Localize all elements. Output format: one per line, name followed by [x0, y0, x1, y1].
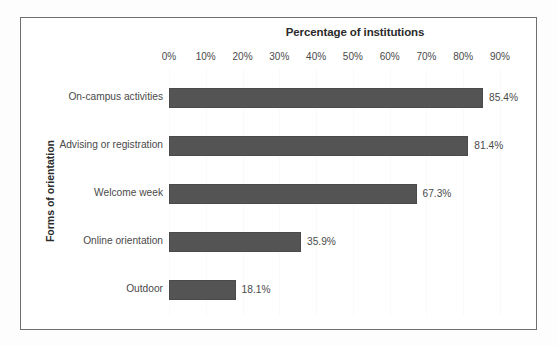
bar-1[interactable] [169, 88, 483, 108]
x-tick-label: 10% [186, 51, 226, 62]
category-label: Online orientation [0, 235, 163, 246]
bar-value-label: 67.3% [423, 188, 452, 199]
bar-row: Outdoor18.1% [0, 280, 557, 300]
x-tick-label: 90% [480, 51, 520, 62]
x-tick-label: 80% [443, 51, 483, 62]
bar-row: Welcome week67.3% [0, 184, 557, 204]
x-tick-label: 0% [149, 51, 189, 62]
x-tick-label: 60% [370, 51, 410, 62]
bar-value-label: 81.4% [474, 140, 503, 151]
bar-value-label: 18.1% [242, 284, 271, 295]
bar-3[interactable] [169, 184, 417, 204]
x-tick-label: 50% [333, 51, 373, 62]
bar-row: On-campus activities85.4% [0, 88, 557, 108]
category-label: On-campus activities [0, 91, 163, 102]
x-tick-label: 20% [223, 51, 263, 62]
bar-value-label: 85.4% [489, 92, 518, 103]
x-tick-label: 40% [296, 51, 336, 62]
chart-title: Percentage of institutions [160, 26, 550, 38]
x-tick-label: 70% [406, 51, 446, 62]
bar-5[interactable] [169, 280, 236, 300]
chart-figure: Percentage of institutions Forms of orie… [0, 0, 557, 346]
bar-4[interactable] [169, 232, 301, 252]
bar-row: Online orientation35.9% [0, 232, 557, 252]
category-label: Advising or registration [0, 139, 163, 150]
category-label: Outdoor [0, 283, 163, 294]
category-label: Welcome week [0, 187, 163, 198]
bar-value-label: 35.9% [307, 236, 336, 247]
bar-row: Advising or registration81.4% [0, 136, 557, 156]
x-axis-tick-labels: 0%10%20%30%40%50%60%70%80%90% [0, 51, 557, 65]
bar-2[interactable] [169, 136, 468, 156]
x-tick-label: 30% [259, 51, 299, 62]
